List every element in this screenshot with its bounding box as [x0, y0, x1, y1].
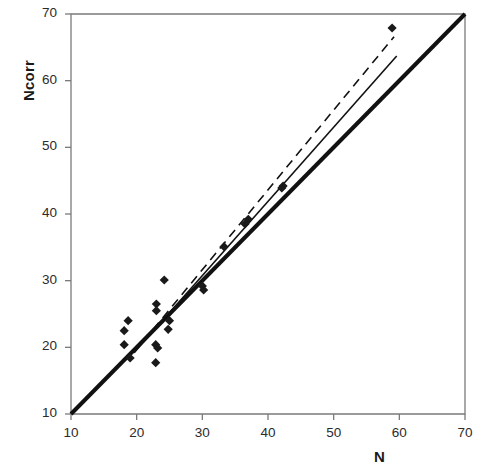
data-point-marker [160, 275, 169, 284]
data-point-marker [388, 23, 397, 32]
x-axis-tick-marks [71, 414, 465, 420]
data-point-marker [164, 325, 173, 334]
y-axis-tick-label: 70 [23, 5, 57, 20]
data-point-group [120, 23, 397, 367]
data-point-marker [152, 306, 161, 315]
x-axis-tick-label: 50 [317, 425, 351, 440]
x-axis-title: N [374, 448, 385, 465]
scatter-plot-figure: Ncorr N 10203040506070 10203040506070 [0, 0, 485, 476]
y-axis-tick-marks [65, 14, 71, 414]
plot-canvas [0, 0, 485, 476]
y-axis-tick-label: 10 [23, 405, 57, 420]
data-point-marker [120, 326, 129, 335]
y-axis-tick-label: 30 [23, 272, 57, 287]
data-point-marker [151, 358, 160, 367]
data-point-marker [219, 242, 228, 251]
x-axis-tick-label: 40 [251, 425, 285, 440]
x-axis-tick-label: 60 [382, 425, 416, 440]
data-point-marker [124, 316, 133, 325]
x-axis-tick-label: 20 [120, 425, 154, 440]
x-axis-tick-label: 70 [448, 425, 482, 440]
y-axis-tick-label: 40 [23, 205, 57, 220]
regression-line [134, 56, 397, 353]
regression-line-dashed [134, 37, 394, 353]
data-point-marker [120, 340, 129, 349]
y-axis-tick-label: 50 [23, 138, 57, 153]
y-axis-tick-label: 60 [23, 72, 57, 87]
x-axis-tick-label: 30 [185, 425, 219, 440]
x-axis-tick-label: 10 [54, 425, 88, 440]
y-axis-tick-label: 20 [23, 338, 57, 353]
